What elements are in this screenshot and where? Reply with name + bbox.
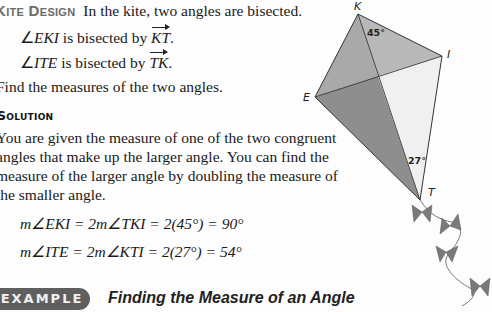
bisection-2: ∠ITE is bisected by TK.	[20, 54, 172, 72]
example-title: Finding the Measure of an Angle	[108, 289, 355, 307]
problem-task: Find the measures of the two angles.	[0, 78, 223, 96]
vertex-label-k: K	[354, 0, 362, 13]
bisection-1: ∠EKI is bisected by KT.	[20, 29, 174, 47]
vertex-label-e: E	[303, 91, 310, 104]
equation-eki: m∠EKI = 2m∠TKI = 2(45°) = 90°	[20, 215, 243, 233]
angle-label-45: 45°	[367, 27, 385, 38]
vertex-label-i: I	[447, 48, 450, 61]
solution-line-2: angles that make up the larger angle. Yo…	[0, 148, 329, 166]
solution-heading: Solution	[0, 107, 53, 125]
angle-label-27: 27°	[408, 155, 426, 166]
kite-tail-bows	[412, 205, 490, 296]
solution-line-4: the smaller angle.	[0, 186, 106, 204]
example-badge: EXAMPLE 5	[0, 288, 90, 310]
ray-kt: KT	[151, 29, 170, 47]
equation-ite: m∠ITE = 2m∠KTI = 2(27°) = 54°	[20, 243, 242, 261]
problem-intro: Kite Design In the kite, two angles are …	[0, 2, 302, 20]
solution-line-3: measure of the larger angle by doubling …	[0, 167, 338, 185]
problem-intro-text: In the kite, two angles are bisected.	[83, 2, 302, 19]
vertex-label-t: T	[428, 186, 436, 199]
ray-tk: TK	[149, 54, 168, 72]
problem-heading: Kite Design	[0, 2, 75, 19]
solution-line-1: You are given the measure of one of the …	[0, 129, 336, 147]
